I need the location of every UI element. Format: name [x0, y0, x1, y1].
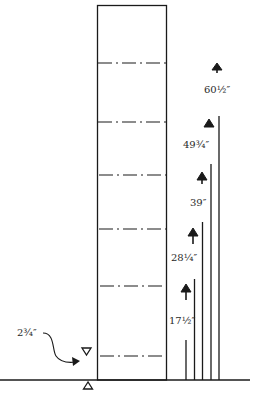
dashed-division-lines — [98, 63, 167, 356]
level-marker-up-icon — [84, 382, 93, 389]
up-arrow-icon — [212, 63, 222, 73]
measurement-label: 49¾″ — [183, 139, 209, 150]
up-arrow-icon — [188, 228, 198, 244]
offset-label: 2¾″ — [17, 327, 37, 338]
up-arrow-icon — [181, 284, 191, 300]
measurement-label: 28¼″ — [171, 252, 197, 263]
measurement-lines — [186, 116, 219, 380]
level-marker-down-icon — [82, 348, 91, 355]
column-outline — [98, 6, 167, 381]
measurement-label: 39″ — [190, 197, 207, 208]
measurement-label: 60½″ — [204, 84, 230, 95]
measurement-label: 17½″ — [169, 315, 195, 326]
up-arrow-icon — [204, 119, 214, 127]
up-arrow-icon — [197, 172, 207, 184]
curved-leader-arrow — [43, 333, 76, 362]
diagram-canvas: 17½″ 28¼″ 39″ 49¾″ 60½″ 2¾″ — [0, 0, 254, 399]
leader-arrowhead-icon — [72, 357, 80, 366]
arrow-markers — [181, 63, 222, 300]
